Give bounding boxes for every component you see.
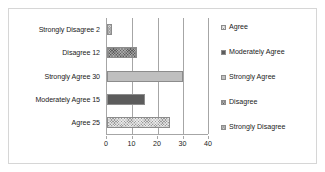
legend-label: Disagree (229, 98, 257, 106)
category-axis: Strongly Disagree 2Disagree 12Strongly A… (15, 18, 104, 135)
bar-row (107, 111, 208, 134)
axis-tick-label: 40 (204, 140, 212, 148)
legend-item[interactable]: Strongly Disagree (221, 123, 313, 131)
bar-series-group (107, 18, 208, 134)
bar[interactable] (107, 24, 112, 35)
legend-item[interactable]: Moderately Agree (221, 48, 313, 56)
axis-tick-label: 30 (179, 140, 187, 148)
legend-item[interactable]: Disagree (221, 98, 313, 106)
value-axis: 010203040 (106, 136, 208, 150)
category-label: Disagree 12 (15, 41, 104, 64)
plot-area (106, 18, 208, 135)
legend-swatch-icon (221, 125, 226, 130)
chart-legend: AgreeModerately AgreeStrongly AgreeDisag… (221, 23, 313, 131)
legend-label: Strongly Disagree (229, 123, 285, 131)
axis-tick-label: 20 (153, 140, 161, 148)
category-label: Moderately Agree 15 (15, 88, 104, 111)
bar-row (107, 88, 208, 111)
legend-item[interactable]: Agree (221, 23, 313, 31)
axis-tick (157, 136, 158, 139)
bar[interactable] (107, 47, 137, 58)
axis-tick (208, 136, 209, 139)
legend-item[interactable]: Strongly Agree (221, 73, 313, 81)
gridline (208, 18, 209, 134)
chart-container: Strongly Disagree 2Disagree 12Strongly A… (8, 8, 317, 164)
legend-label: Agree (229, 23, 248, 31)
legend-swatch-icon (221, 25, 226, 30)
bar[interactable] (107, 117, 170, 128)
axis-tick (183, 136, 184, 139)
bar-row (107, 18, 208, 41)
legend-swatch-icon (221, 50, 226, 55)
bar-row (107, 64, 208, 87)
legend-swatch-icon (221, 75, 226, 80)
axis-tick-label: 10 (128, 140, 136, 148)
axis-tick (132, 136, 133, 139)
legend-swatch-icon (221, 100, 226, 105)
category-label: Strongly Disagree 2 (15, 18, 104, 41)
bar[interactable] (107, 71, 183, 82)
category-label: Strongly Agree 30 (15, 65, 104, 88)
bar-row (107, 41, 208, 64)
legend-label: Moderately Agree (229, 48, 285, 56)
legend-label: Strongly Agree (229, 73, 276, 81)
bar[interactable] (107, 94, 145, 105)
axis-tick-label: 0 (104, 140, 108, 148)
axis-tick (106, 136, 107, 139)
category-label: Agree 25 (15, 112, 104, 135)
